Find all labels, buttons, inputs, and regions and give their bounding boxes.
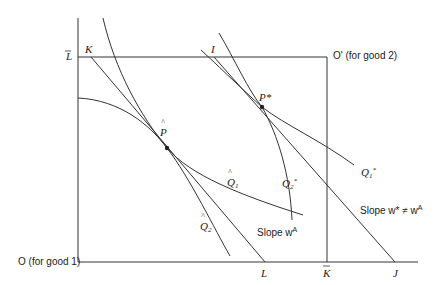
label-q2-star: Q2* bbox=[282, 177, 297, 191]
label-j: J bbox=[393, 267, 398, 279]
label-origin-good2: O' (for good 2) bbox=[333, 50, 397, 61]
label-k-bar: K bbox=[323, 267, 330, 279]
isoquant-q1-star bbox=[201, 50, 354, 165]
label-q1-star: Q1* bbox=[361, 166, 376, 180]
label-p-star: P* bbox=[259, 91, 271, 103]
edgeworth-box-diagram bbox=[0, 0, 447, 285]
label-p-hat: ^P bbox=[160, 126, 167, 138]
isoquant-q2-star bbox=[219, 33, 292, 220]
point-p-star bbox=[260, 105, 264, 109]
label-i: I bbox=[211, 43, 215, 55]
label-l-bar: L bbox=[66, 50, 72, 62]
label-l: L bbox=[261, 267, 267, 279]
label-q1-hat: ^Q1 bbox=[227, 176, 238, 190]
label-slope-autarky: Slope wA bbox=[257, 226, 297, 238]
autarky-price-line bbox=[91, 57, 265, 262]
isoquant-q1-hat bbox=[78, 98, 303, 215]
label-k: K bbox=[85, 43, 92, 55]
label-q2-hat: ^Q2 bbox=[200, 220, 211, 234]
point-p-hat bbox=[165, 146, 169, 150]
label-origin-good1: O (for good 1) bbox=[18, 256, 80, 267]
label-slope-trade: Slope w* ≠ wA bbox=[360, 204, 422, 216]
